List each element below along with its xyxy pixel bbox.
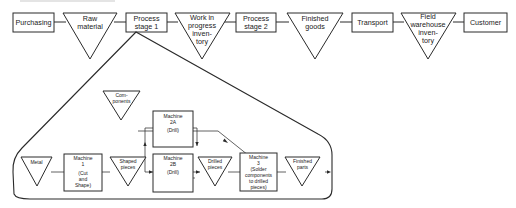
node-label-line: tory [196, 37, 208, 46]
node-metal: Metal [21, 157, 52, 186]
node-label: Purchasing [16, 18, 52, 27]
node-label-line: 1 [82, 161, 85, 167]
node-wip-inventory: Work in progress inven- tory [175, 13, 230, 59]
node-label-line: pieces) [250, 184, 266, 190]
supply-chain-diagram: Purchasing Raw material Process stage 1 … [0, 0, 516, 208]
node-label: Transport [357, 18, 388, 27]
node-shaped-pieces: Shaped pieces [110, 157, 146, 186]
node-label-line: ponents [113, 98, 131, 104]
node-components: Com- ponents [103, 91, 140, 120]
node-machine-3: Machine 3 (Solder components to drilled … [240, 153, 277, 191]
node-label-line: Shape) [75, 182, 91, 188]
node-transport: Transport [352, 13, 393, 32]
node-finished-parts: Finished parts [285, 157, 320, 186]
node-label-line: parts [297, 164, 309, 170]
arrowhead [149, 170, 153, 173]
arrowhead [223, 139, 228, 144]
node-label-line: stage 1 [135, 22, 159, 31]
node-raw-material: Raw material [63, 13, 117, 59]
arrowhead [196, 170, 200, 173]
node-process-stage-1: Process stage 1 [126, 13, 167, 32]
node-finished-goods: Finished goods [287, 13, 343, 59]
node-machine-1: Machine 1 (Cut and Shape) [64, 154, 102, 191]
node-label-line: goods [305, 22, 325, 31]
arrowhead [195, 142, 198, 146]
node-label-line: (Drill) [167, 169, 179, 175]
node-label: Customer [470, 18, 502, 27]
node-machine-2b: Machine 2B (Drill) [153, 154, 193, 192]
node-label-line: material [77, 22, 103, 31]
node-label: Metal [30, 159, 42, 165]
node-machine-2a: Machine 2A (Drill) [153, 111, 193, 147]
node-drilled-pieces: Drilled pieces [198, 157, 232, 186]
node-field-warehouse-inventory: Field warehouse inven- tory [401, 12, 456, 59]
arrowhead [143, 142, 146, 146]
node-purchasing: Purchasing [13, 13, 54, 32]
node-label-line: 2A [170, 119, 177, 125]
node-process-stage-2: Process stage 2 [236, 13, 276, 32]
node-customer: Customer [464, 13, 507, 32]
cropped-header-remnant [20, 0, 115, 2]
node-label-line: (Drill) [167, 127, 179, 133]
node-label-line: 2B [170, 161, 177, 167]
arrowhead [327, 170, 331, 173]
node-label-line: pieces [208, 164, 223, 170]
node-label-line: stage 2 [244, 22, 268, 31]
node-label-line: pieces [121, 164, 136, 170]
node-label-line: tory [422, 36, 434, 45]
